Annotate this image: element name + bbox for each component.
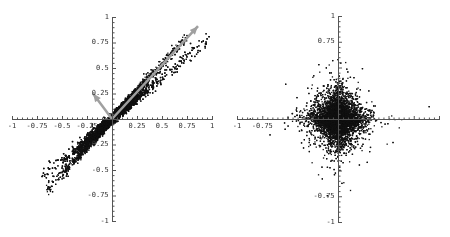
right-plot-canvas: [225, 0, 450, 237]
x-tick-label: -0.5: [54, 123, 71, 130]
y-tick-label: -0.5: [92, 167, 109, 174]
x-tick-label: 0.75: [179, 123, 196, 130]
y-tick-label: 1: [105, 14, 109, 21]
x-tick-label: -0.25: [77, 123, 98, 130]
x-tick-label: -0.75: [252, 123, 273, 130]
right-scatter-plot: -1-0.7510.75-0.75-1: [225, 0, 450, 237]
y-tick-label: -0.75: [314, 193, 335, 200]
x-tick-label: 0.5: [156, 123, 169, 130]
y-tick-label: 0.25: [92, 90, 109, 97]
y-tick-label: -1: [100, 218, 108, 225]
x-tick-label: -0.75: [27, 123, 48, 130]
y-tick-label: 0.5: [96, 65, 109, 72]
y-tick-label: 0.75: [318, 38, 335, 45]
left-scatter-plot: -1-0.75-0.5-0.250.250.50.75110.750.50.25…: [0, 0, 225, 237]
x-tick-label: -1: [8, 123, 16, 130]
x-tick-label: -1: [233, 123, 241, 130]
y-tick-label: -0.75: [88, 192, 109, 199]
y-tick-label: -1: [326, 219, 334, 226]
x-tick-label: 1: [210, 123, 214, 130]
y-tick-label: 1: [331, 13, 335, 20]
left-plot-canvas: [0, 0, 225, 237]
y-tick-label: -0.25: [88, 141, 109, 148]
y-tick-label: 0.75: [92, 39, 109, 46]
x-tick-label: 0.25: [129, 123, 146, 130]
